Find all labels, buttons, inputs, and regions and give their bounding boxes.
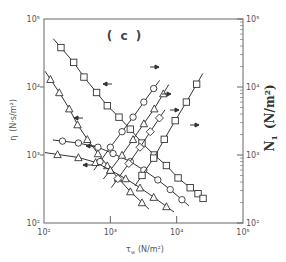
y-right-axis-title: N1(N/m²) [263, 84, 279, 151]
y-right-tick-label: 10³ [246, 151, 259, 160]
y-left-tick-label: 10³ [27, 151, 40, 160]
x-tick-label: 10³ [104, 228, 117, 237]
y-right-axis-ticks: 10²10³10⁴10⁵ [237, 15, 259, 228]
x-tick-label: 10⁴ [170, 228, 183, 237]
chart-figure: 10²10³10⁴10⁵ 10²10³10⁴10⁵ 10²10³10⁴10⁵ (… [0, 0, 286, 262]
x-axis-title: τw(N/m²) [126, 245, 164, 255]
x-tick-label: 10² [37, 228, 50, 237]
y-left-tick-label: 10⁵ [27, 15, 40, 24]
y-left-axis-ticks: 10²10³10⁴10⁵ [27, 15, 44, 228]
series-diamond-right [111, 110, 165, 188]
series-circle-right [94, 80, 160, 170]
y-right-tick-label: 10⁵ [246, 15, 259, 24]
series-square-left [53, 39, 206, 202]
y-right-tick-label: 10⁴ [246, 83, 259, 92]
series-layer [45, 39, 206, 212]
x-axis-ticks: 10²10³10⁴10⁵ [37, 216, 249, 237]
y-left-tick-label: 10² [27, 219, 40, 228]
y-left-axis-title: η(N·s/m²) [9, 99, 18, 141]
series-circle-left [53, 138, 189, 206]
y-right-tick-label: 10² [246, 219, 259, 228]
x-tick-label: 10⁵ [236, 228, 249, 237]
y-left-tick-label: 10⁴ [27, 83, 40, 92]
panel-label: ( c ) [107, 29, 143, 43]
